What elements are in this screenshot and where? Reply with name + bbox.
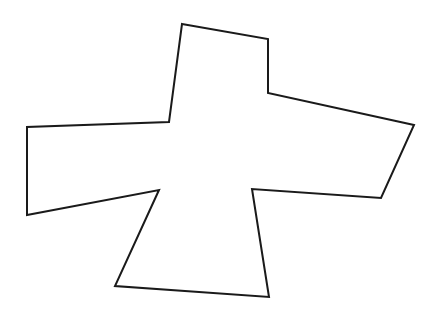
diagram-canvas <box>0 0 439 314</box>
cross-polygon <box>27 24 414 297</box>
